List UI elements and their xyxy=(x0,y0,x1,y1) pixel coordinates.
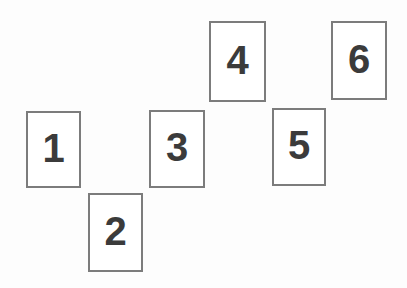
card-4[interactable]: 4 xyxy=(209,21,266,102)
card-6-number: 6 xyxy=(348,39,370,79)
card-2[interactable]: 2 xyxy=(88,193,143,272)
card-6[interactable]: 6 xyxy=(331,21,387,100)
card-3[interactable]: 3 xyxy=(149,110,205,188)
card-4-number: 4 xyxy=(226,40,248,80)
card-3-number: 3 xyxy=(166,127,188,167)
card-5[interactable]: 5 xyxy=(272,108,326,186)
card-5-number: 5 xyxy=(288,125,310,165)
card-1[interactable]: 1 xyxy=(26,111,81,188)
card-canvas: 1 2 3 4 5 6 xyxy=(0,0,407,288)
card-2-number: 2 xyxy=(104,211,126,251)
card-1-number: 1 xyxy=(42,128,64,168)
